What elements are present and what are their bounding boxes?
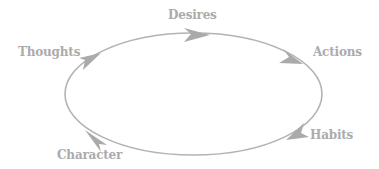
arrow-actions-to-habits-icon [279,49,303,64]
arrow-desires-to-actions-icon [184,28,210,42]
cycle-ellipse-graphic [0,0,379,169]
node-label-thoughts: Thoughts [18,45,80,59]
cycle-loop [65,33,322,155]
arrow-habits-to-character-icon [286,123,309,140]
node-label-actions: Actions [313,45,362,59]
cycle-diagram: Desires Actions Habits Character Thought… [0,0,379,169]
node-label-character: Character [57,148,122,162]
node-label-habits: Habits [310,128,353,142]
node-label-desires: Desires [168,8,217,22]
arrow-thoughts-to-desires-icon [79,53,101,70]
